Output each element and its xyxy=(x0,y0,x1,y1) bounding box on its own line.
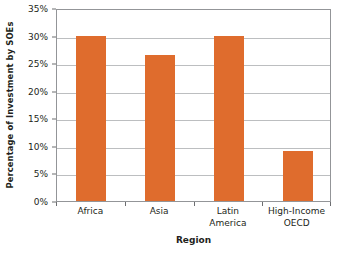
bar xyxy=(145,55,175,201)
y-tick-label: 20% xyxy=(28,87,48,97)
x-axis-title: Region xyxy=(56,235,331,245)
y-tick-label: 15% xyxy=(28,114,48,124)
x-tick-label: High-IncomeOECD xyxy=(268,206,325,229)
bar xyxy=(76,36,106,201)
y-tick-label: 25% xyxy=(28,59,48,69)
y-tick-label: 35% xyxy=(28,4,48,14)
x-tick-label: Africa xyxy=(78,206,104,218)
x-tick-label-line: America xyxy=(209,218,246,230)
bar xyxy=(214,36,244,201)
y-axis-ticks: 0%5%10%15%20%25%30%35% xyxy=(18,9,52,202)
x-tick-label-line: OECD xyxy=(268,218,325,230)
y-tick-label: 5% xyxy=(34,169,48,179)
y-axis-title: Percentage of Investment by SOEs xyxy=(0,0,20,210)
x-tick-label-line: Africa xyxy=(78,206,104,218)
y-tick-label: 0% xyxy=(34,197,48,207)
bar xyxy=(283,151,313,201)
x-axis-labels: AfricaAsiaLatinAmericaHigh-IncomeOECD xyxy=(56,206,331,236)
x-tick-label: LatinAmerica xyxy=(209,206,246,229)
bars-group xyxy=(57,10,330,201)
x-tick-label: Asia xyxy=(150,206,169,218)
plot-area xyxy=(56,9,331,202)
x-tick-label-line: Latin xyxy=(209,206,246,218)
y-tick-label: 10% xyxy=(28,142,48,152)
bar-chart: Percentage of Investment by SOEs 0%5%10%… xyxy=(0,0,342,258)
y-axis-title-text: Percentage of Investment by SOEs xyxy=(5,21,15,188)
x-tick-label-line: Asia xyxy=(150,206,169,218)
y-tick-label: 30% xyxy=(28,32,48,42)
x-tick-label-line: High-Income xyxy=(268,206,325,218)
